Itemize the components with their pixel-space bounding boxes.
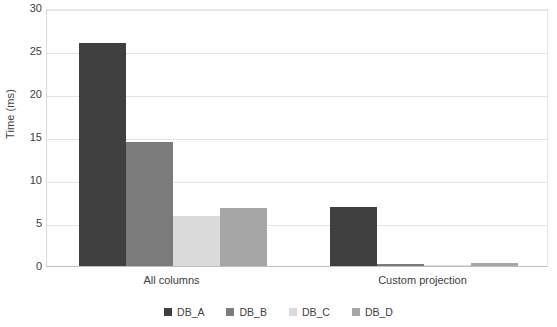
- bar-DB_D-1[interactable]: [220, 208, 267, 266]
- legend-item-DB_A[interactable]: DB_A: [164, 306, 204, 318]
- y-axis-tick-label: 30: [2, 3, 42, 14]
- legend-item-DB_B[interactable]: DB_B: [226, 306, 266, 318]
- bar-DB_A-2[interactable]: [330, 207, 377, 266]
- legend-label: DB_D: [365, 306, 393, 318]
- bar-DB_D-2[interactable]: [471, 263, 518, 266]
- legend-swatch-icon: [226, 308, 234, 316]
- bars-layer: [47, 10, 547, 266]
- legend-swatch-icon: [352, 308, 360, 316]
- y-axis-tick-label: 5: [2, 218, 42, 229]
- plot-area: [46, 9, 548, 267]
- y-axis-tick-label: 10: [2, 175, 42, 186]
- bar-DB_B-2[interactable]: [377, 264, 424, 266]
- bar-DB_C-1[interactable]: [173, 216, 220, 266]
- legend-label: DB_A: [177, 306, 204, 318]
- legend-item-DB_D[interactable]: DB_D: [352, 306, 393, 318]
- x-axis-category-label: All columns: [72, 274, 272, 286]
- legend-label: DB_C: [302, 306, 330, 318]
- y-axis-tick-label: 15: [2, 132, 42, 143]
- bar-DB_C-2[interactable]: [424, 265, 471, 266]
- bar-DB_B-1[interactable]: [126, 142, 173, 266]
- x-axis-category-label: Custom projection: [323, 274, 523, 286]
- legend-swatch-icon: [164, 308, 172, 316]
- bar-chart: Time (ms) 051015202530 All columnsCustom…: [0, 0, 557, 327]
- bar-DB_A-1[interactable]: [79, 43, 126, 266]
- y-axis-tick-label: 0: [2, 261, 42, 272]
- y-axis-tick-label: 25: [2, 46, 42, 57]
- legend-swatch-icon: [289, 308, 297, 316]
- legend-label: DB_B: [239, 306, 266, 318]
- legend-item-DB_C[interactable]: DB_C: [289, 306, 330, 318]
- legend: DB_ADB_BDB_CDB_D: [0, 306, 557, 318]
- y-axis-tick-label: 20: [2, 89, 42, 100]
